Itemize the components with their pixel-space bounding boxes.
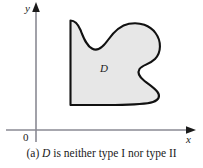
caption-rest: is neither type I nor type II xyxy=(53,147,176,159)
region-d-label: D xyxy=(99,62,108,74)
origin-label: 0 xyxy=(23,131,29,143)
coordinate-plot: D y x 0 xyxy=(0,0,203,145)
region-d-shape xyxy=(71,21,160,106)
caption-symbol: D xyxy=(42,147,50,159)
y-axis-arrow-icon xyxy=(32,2,40,12)
caption-prefix: (a) xyxy=(26,147,39,159)
figure-caption: (a) D is neither type I nor type II xyxy=(0,146,203,161)
figure-container: D y x 0 (a) D is neither type I nor type… xyxy=(0,0,203,168)
y-axis-label: y xyxy=(24,2,30,14)
x-axis-label: x xyxy=(185,133,191,145)
